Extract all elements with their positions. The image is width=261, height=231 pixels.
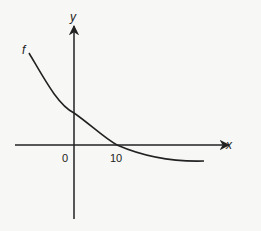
y-axis-label: y (69, 10, 77, 24)
tick-label-0: 0 (62, 152, 68, 164)
tick-label-10: 10 (110, 152, 122, 164)
function-label: f (22, 43, 27, 57)
x-axis-label: x (225, 138, 233, 152)
function-graph: f y x 0 10 (0, 0, 261, 231)
